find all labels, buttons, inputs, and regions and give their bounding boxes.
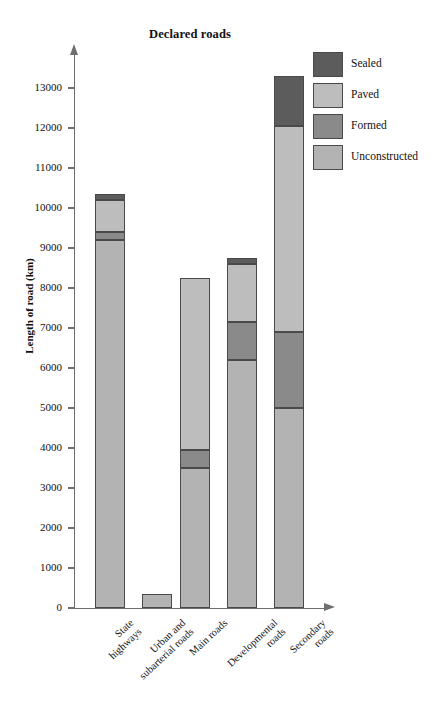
y-tick-label: 6000: [18, 362, 62, 373]
legend-swatch: [313, 52, 343, 77]
y-tick-label: 8000: [18, 282, 62, 293]
bar-segment: [274, 408, 304, 608]
y-tick-label-wrap: 2000: [18, 522, 62, 534]
y-tick-label-wrap: 12000: [18, 122, 62, 134]
y-tick-mark: [68, 207, 75, 208]
y-tick-mark: [68, 287, 75, 288]
y-tick-mark: [68, 527, 75, 528]
legend-swatch: [313, 114, 343, 139]
y-tick-label-wrap: 5000: [18, 402, 62, 414]
y-tick-label: 3000: [18, 482, 62, 493]
y-tick-label-wrap: 3000: [18, 482, 62, 494]
y-tick-mark: [68, 87, 75, 88]
y-tick-label-wrap: 7000: [18, 322, 62, 334]
legend-item: Paved: [313, 83, 441, 112]
y-tick-label: 5000: [18, 402, 62, 413]
y-tick-mark: [68, 327, 75, 328]
bar-segment: [95, 200, 125, 232]
y-tick-mark: [68, 367, 75, 368]
y-tick-label: 0: [18, 602, 62, 613]
bar-segment: [180, 278, 210, 450]
legend-swatch: [313, 145, 343, 170]
bar-segment: [227, 360, 257, 608]
y-tick-label-wrap: 8000: [18, 282, 62, 294]
bar-segment: [227, 322, 257, 360]
bar-segment: [274, 126, 304, 332]
y-tick-label: 9000: [18, 242, 62, 253]
y-tick-mark: [68, 567, 75, 568]
y-tick-mark: [68, 447, 75, 448]
bar-segment: [274, 76, 304, 126]
y-tick-label: 12000: [18, 122, 62, 133]
legend-item: Formed: [313, 114, 441, 143]
y-tick-label: 7000: [18, 322, 62, 333]
bar-stack: [95, 0, 125, 713]
y-tick-label-wrap: 0: [18, 602, 62, 614]
legend: SealedPavedFormedUnconstructed: [313, 52, 441, 176]
bar-segment: [274, 332, 304, 408]
legend-label: Sealed: [351, 57, 382, 69]
bar-segment: [180, 468, 210, 608]
y-tick-label-wrap: 6000: [18, 362, 62, 374]
bar-stack: [180, 0, 210, 713]
y-tick-label: 10000: [18, 202, 62, 213]
bar-segment: [227, 258, 257, 264]
y-tick-label-wrap: 10000: [18, 202, 62, 214]
bar-segment: [180, 450, 210, 468]
legend-swatch: [313, 83, 343, 108]
y-tick-mark: [68, 127, 75, 128]
y-tick-label: 4000: [18, 442, 62, 453]
bar-stack: [227, 0, 257, 713]
y-tick-label-wrap: 13000: [18, 82, 62, 94]
y-tick-label: 11000: [18, 162, 62, 173]
y-tick-mark: [68, 607, 75, 608]
bar-stack: [142, 0, 172, 713]
legend-label: Paved: [351, 88, 379, 100]
bar-segment: [95, 194, 125, 200]
y-tick-mark: [68, 487, 75, 488]
bar-stack: [274, 0, 304, 713]
legend-label: Formed: [351, 119, 387, 131]
y-tick-label-wrap: 11000: [18, 162, 62, 174]
y-axis-arrow-icon: [70, 44, 78, 55]
legend-label: Unconstructed: [351, 150, 418, 162]
y-tick-mark: [68, 247, 75, 248]
bar-segment: [227, 264, 257, 322]
x-axis-arrow-icon: [324, 603, 335, 611]
bar-segment: [142, 594, 172, 608]
y-tick-label: 13000: [18, 82, 62, 93]
y-axis-line: [74, 52, 75, 609]
y-tick-label-wrap: 9000: [18, 242, 62, 254]
y-tick-mark: [68, 167, 75, 168]
y-tick-label-wrap: 1000: [18, 562, 62, 574]
y-tick-mark: [68, 407, 75, 408]
chart-figure: Declared roads Length of road (km) 01000…: [0, 0, 441, 713]
bar-segment: [95, 240, 125, 608]
bar-segment: [95, 232, 125, 240]
legend-item: Sealed: [313, 52, 441, 81]
y-tick-label: 2000: [18, 522, 62, 533]
y-tick-label: 1000: [18, 562, 62, 573]
legend-item: Unconstructed: [313, 145, 441, 174]
y-tick-label-wrap: 4000: [18, 442, 62, 454]
